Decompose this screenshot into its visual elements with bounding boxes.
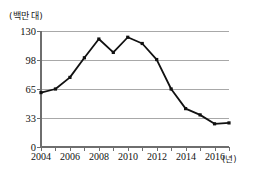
x-tick-label: 2004 xyxy=(31,151,51,162)
data-point-marker xyxy=(97,37,100,40)
data-point-markers xyxy=(39,36,230,126)
x-tick-label: 2012 xyxy=(147,151,167,162)
chart-plot-area xyxy=(0,0,253,175)
data-point-marker xyxy=(227,121,230,124)
data-point-marker xyxy=(68,76,71,79)
data-point-marker xyxy=(184,107,187,110)
data-point-marker xyxy=(198,113,201,116)
x-axis-unit-label: (년) xyxy=(222,152,237,164)
data-point-marker xyxy=(213,122,216,125)
data-series-line xyxy=(41,37,229,124)
data-point-marker xyxy=(39,91,42,94)
chart-container: (백만 대) 130 98 65 33 0 xyxy=(0,0,253,175)
data-point-marker xyxy=(112,51,115,54)
x-tick-label: 2014 xyxy=(176,151,196,162)
x-tick-label: 2006 xyxy=(60,151,80,162)
x-tick-label: 2010 xyxy=(118,151,138,162)
data-point-marker xyxy=(83,56,86,59)
x-tick-label: 2008 xyxy=(89,151,109,162)
data-point-marker xyxy=(141,42,144,45)
data-point-marker xyxy=(170,87,173,90)
data-point-marker xyxy=(126,36,129,39)
gridlines xyxy=(41,31,229,118)
data-point-marker xyxy=(54,87,57,90)
data-point-marker xyxy=(155,58,158,61)
